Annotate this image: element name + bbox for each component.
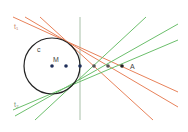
point-m[interactable] bbox=[50, 64, 54, 68]
label-t2: t₂ bbox=[14, 101, 19, 108]
geometry-canvas: c M A t₁ t₂ bbox=[0, 0, 188, 132]
label-m: M bbox=[53, 56, 59, 63]
label-a: A bbox=[130, 63, 135, 70]
green-line-2[interactable] bbox=[15, 24, 178, 116]
point-a[interactable] bbox=[120, 64, 124, 68]
point-2[interactable] bbox=[64, 64, 68, 68]
point-4[interactable] bbox=[92, 64, 96, 68]
orange-line-3[interactable] bbox=[40, 17, 153, 120]
label-t1: t₁ bbox=[14, 23, 19, 30]
point-5[interactable] bbox=[106, 64, 110, 68]
orange-line-1[interactable] bbox=[13, 17, 178, 92]
point-3[interactable] bbox=[78, 64, 82, 68]
label-c: c bbox=[37, 46, 41, 53]
